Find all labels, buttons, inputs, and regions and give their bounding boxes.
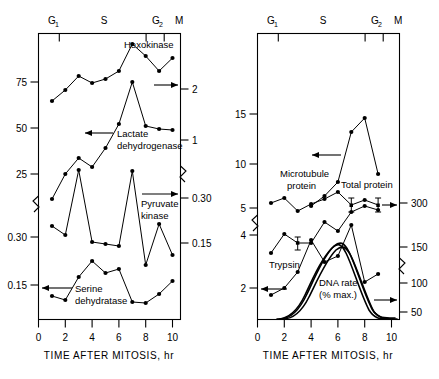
- data-point: [77, 168, 81, 172]
- arrow-pyruvate-to-right-axis: [142, 191, 178, 197]
- y-right-ticklabel-1: 1: [192, 135, 198, 146]
- x-ticklabel-2: 2: [63, 332, 69, 343]
- data-point: [309, 202, 313, 206]
- y-axis-right-ticks-left-panel: [181, 89, 189, 243]
- arrow-lactate-to-left-axis: [85, 130, 113, 136]
- data-point: [157, 292, 161, 296]
- arrow-dna-to-right-axis: [374, 297, 397, 303]
- x-axis-title-left: TIME AFTER MITOSIS, hr: [44, 350, 174, 361]
- series-label-pyruvate-line2: kinase: [141, 210, 168, 221]
- data-point: [144, 263, 148, 267]
- data-point: [50, 224, 54, 228]
- y-axis-left-ticks-left-panel: [31, 82, 39, 285]
- data-point: [157, 127, 161, 131]
- data-point: [349, 210, 353, 214]
- data-point: [363, 198, 367, 202]
- data-point: [103, 77, 107, 81]
- y-left-ticklabel-15: 15: [235, 109, 247, 120]
- phase-label-m: M: [394, 15, 402, 26]
- data-point: [296, 270, 300, 274]
- phase-label-g2-sub: 2: [378, 21, 382, 28]
- data-point: [363, 280, 367, 284]
- y-left-ticklabel-25: 25: [16, 169, 28, 180]
- series-label-trypsin: Trypsin: [269, 259, 300, 270]
- x-ticklabel-4: 4: [89, 332, 95, 343]
- y-axis-right-ticklabels-right-panel: 300 150 100 50: [411, 198, 428, 318]
- x-axis-ticklabels-right: 0 2 4 6 8 10: [255, 332, 398, 343]
- y-left-ticklabel-4: 4: [240, 230, 246, 241]
- data-point: [50, 197, 54, 201]
- series-label-serine-line1: Serine: [75, 283, 102, 294]
- y-left-ticklabel-0.30: 0.30: [8, 232, 28, 243]
- data-point: [309, 238, 313, 242]
- data-point: [90, 240, 94, 244]
- data-point: [63, 233, 67, 237]
- data-point: [90, 165, 94, 169]
- data-point: [77, 275, 81, 279]
- y-right-ticklabel-0.30: 0.30: [192, 193, 212, 204]
- phase-header-left: G 1 S G 2 M: [48, 15, 183, 28]
- series-label-serine-line2: dehydratase: [75, 295, 127, 306]
- y-right-ticklabel-300: 300: [411, 198, 428, 209]
- data-point: [63, 298, 67, 302]
- x-ticklabel-0: 0: [36, 332, 42, 343]
- y-axis-left-ticklabels-left-panel: 75 50 25 0.30 0.15: [8, 77, 28, 291]
- y-axis-left-ticks-right-panel: [250, 114, 258, 288]
- arrow-microtubule-to-left-axis: [312, 152, 341, 158]
- data-point: [117, 69, 121, 73]
- data-point: [376, 172, 380, 176]
- data-point: [130, 169, 134, 173]
- y-left-ticklabel-0.15: 0.15: [8, 280, 28, 291]
- data-point: [363, 204, 367, 208]
- data-point: [50, 294, 54, 298]
- data-point: [269, 201, 273, 205]
- data-point: [103, 242, 107, 246]
- x-ticklabel-10: 10: [386, 332, 398, 343]
- error-bar: [348, 198, 354, 212]
- data-point: [117, 122, 121, 126]
- series-label-dna-line2: (% max.): [319, 289, 357, 300]
- y-left-ticklabel-10: 10: [235, 159, 247, 170]
- data-point: [144, 54, 148, 58]
- series-total-protein: [269, 190, 381, 213]
- phase-label-g1-sub: 1: [55, 21, 59, 28]
- data-point: [269, 293, 273, 297]
- phase-label-g1-sub: 1: [274, 21, 278, 28]
- x-ticklabel-2: 2: [282, 332, 288, 343]
- data-point: [322, 220, 326, 224]
- series-hexokinase: [50, 42, 175, 103]
- data-point: [130, 80, 134, 84]
- x-ticklabel-8: 8: [143, 332, 149, 343]
- data-point: [50, 99, 54, 103]
- y-right-ticklabel-100: 100: [411, 278, 428, 289]
- y-left-ticklabel-5: 5: [240, 203, 246, 214]
- data-point: [157, 69, 161, 73]
- data-point: [336, 254, 340, 258]
- data-point: [103, 146, 107, 150]
- series-microtubule-protein: [309, 116, 380, 208]
- data-point: [296, 209, 300, 213]
- data-point: [349, 130, 353, 134]
- phase-boundary-ticks-right: [278, 34, 383, 42]
- x-ticklabel-6: 6: [335, 332, 341, 343]
- data-point: [170, 128, 174, 132]
- data-point: [282, 232, 286, 236]
- x-axis-ticks-right: [258, 320, 392, 328]
- x-axis-ticks-left: [39, 320, 173, 328]
- data-point: [117, 267, 121, 271]
- data-point: [269, 251, 273, 255]
- data-point: [117, 244, 121, 248]
- data-point: [90, 259, 94, 263]
- x-ticklabel-8: 8: [362, 332, 368, 343]
- series-label-microtubule-line2: protein: [287, 180, 316, 191]
- y-right-ticklabel-2: 2: [192, 84, 198, 95]
- data-point: [157, 222, 161, 226]
- chart-panel-left: G 1 S G 2 M 0 2 4 6 8: [0, 0, 219, 379]
- x-axis-title-right: TIME AFTER MITOSIS, hr: [263, 350, 393, 361]
- x-ticklabel-0: 0: [255, 332, 261, 343]
- data-point: [77, 74, 81, 78]
- y-left-ticklabel-75: 75: [16, 77, 28, 88]
- series-label-microtubule-line1: Microtubule: [280, 168, 329, 179]
- arrow-hexokinase-to-right-axis: [154, 82, 178, 88]
- data-point: [103, 271, 107, 275]
